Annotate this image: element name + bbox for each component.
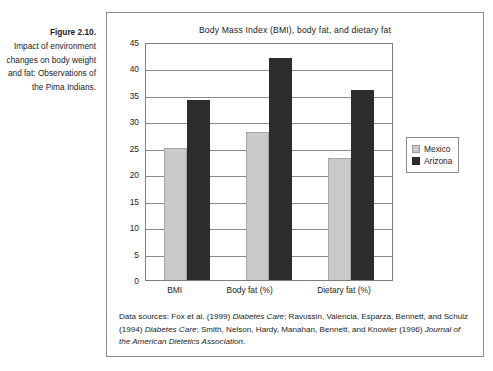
y-axis-tick-label: 25	[130, 144, 139, 154]
bar[interactable]	[246, 132, 269, 280]
bars-layer	[146, 44, 392, 280]
figure-caption-text: Impact of environment changes on body we…	[0, 40, 96, 94]
bar[interactable]	[164, 148, 187, 280]
figure-caption: Figure 2.10. Impact of environment chang…	[0, 26, 96, 94]
legend-item[interactable]: Arizona	[412, 156, 452, 166]
y-axis-tick-label: 20	[130, 170, 139, 180]
y-axis-tick-label: 45	[130, 38, 139, 48]
x-axis-tick-label: Dietary fat (%)	[317, 285, 371, 295]
source-journal-2: Diabetes Care	[145, 325, 197, 334]
legend-swatch-icon	[412, 157, 420, 165]
bar-group	[164, 44, 210, 280]
bar-group	[328, 44, 374, 280]
bar[interactable]	[328, 158, 351, 280]
x-axis: BMIBody fat (%)Dietary fat (%)	[145, 285, 393, 295]
bar[interactable]	[269, 58, 292, 280]
figure-box: Body Mass Index (BMI), body fat, and die…	[106, 12, 484, 357]
y-axis-tick-label: 5	[134, 250, 139, 260]
bar[interactable]	[187, 100, 210, 280]
x-axis-tick-label: Body fat (%)	[227, 285, 273, 295]
chart-title: Body Mass Index (BMI), body fat, and die…	[107, 25, 483, 35]
x-axis-tick-label: BMI	[167, 285, 182, 295]
y-axis-tick-label: 15	[130, 197, 139, 207]
y-axis-tick-label: 0	[134, 276, 139, 286]
legend-label: Arizona	[424, 156, 452, 166]
bar-group	[246, 44, 292, 280]
bar[interactable]	[351, 90, 374, 280]
source-journal-1: Diabetes Care	[232, 312, 284, 321]
source-note-tail: .	[243, 337, 245, 346]
legend-label: Mexico	[424, 144, 451, 154]
source-note-mid-2: ; Smith, Nelson, Hardy, Manahan, Bennett…	[196, 325, 424, 334]
y-axis-tick-label: 10	[130, 223, 139, 233]
legend-swatch-icon	[412, 145, 420, 153]
source-note: Data sources: Fox et al. (1999) Diabetes…	[119, 311, 471, 349]
y-axis: 454035302520151050	[107, 43, 143, 281]
y-axis-tick-label: 40	[130, 64, 139, 74]
source-note-lead: Data sources: Fox et al. (1999)	[119, 312, 232, 321]
figure-number: Figure 2.10.	[0, 26, 96, 39]
figure-root: Figure 2.10. Impact of environment chang…	[0, 0, 493, 371]
y-axis-tick-label: 30	[130, 117, 139, 127]
y-axis-tick-label: 35	[130, 91, 139, 101]
chart-legend: MexicoArizona	[406, 137, 459, 173]
chart-plot-wrapper: 454035302520151050 BMIBody fat (%)Dietar…	[107, 43, 485, 293]
legend-item[interactable]: Mexico	[412, 144, 452, 154]
plot-area	[145, 43, 393, 281]
